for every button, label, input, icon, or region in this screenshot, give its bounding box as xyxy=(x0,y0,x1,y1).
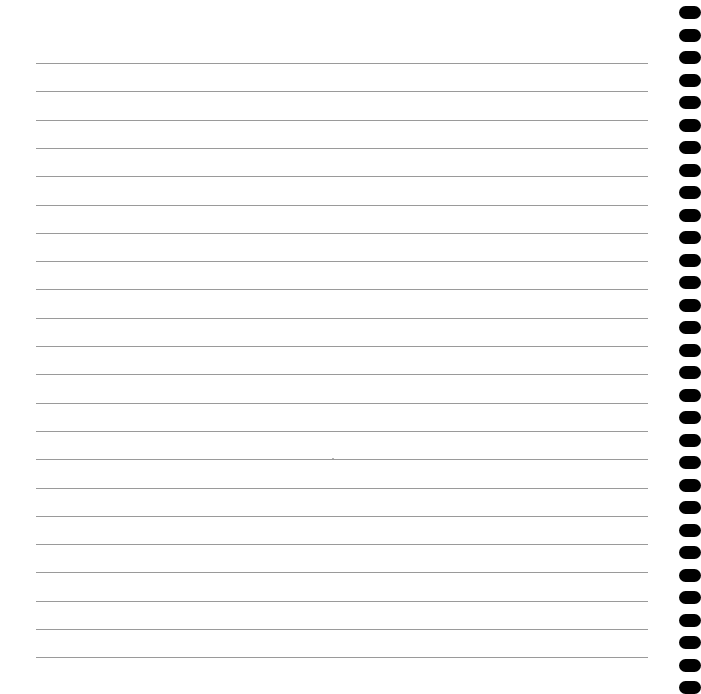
binding-hole xyxy=(679,29,701,42)
ruled-line xyxy=(36,120,648,121)
binding-hole xyxy=(679,344,701,357)
binding-hole xyxy=(679,119,701,132)
ruled-line xyxy=(36,176,648,177)
binding-hole xyxy=(679,614,701,627)
ruled-line xyxy=(36,488,648,489)
ruled-line xyxy=(36,544,648,545)
ruled-line xyxy=(36,261,648,262)
ruled-line xyxy=(36,601,648,602)
binding-hole xyxy=(679,524,701,537)
binding-hole xyxy=(679,456,701,469)
binding-hole xyxy=(679,681,701,694)
paper-speck xyxy=(332,458,334,460)
binding-hole xyxy=(679,636,701,649)
ruled-line xyxy=(36,148,648,149)
binding-hole xyxy=(679,74,701,87)
binding-hole xyxy=(679,479,701,492)
binding-hole xyxy=(679,366,701,379)
binding-hole xyxy=(679,96,701,109)
binding-hole xyxy=(679,321,701,334)
binding-hole xyxy=(679,164,701,177)
ruled-line xyxy=(36,91,648,92)
binding-hole xyxy=(679,389,701,402)
binding-hole xyxy=(679,276,701,289)
binding-hole xyxy=(679,51,701,64)
ruled-line xyxy=(36,318,648,319)
ruled-line xyxy=(36,657,648,658)
binding-hole xyxy=(679,231,701,244)
ruled-line xyxy=(36,403,648,404)
binding-hole xyxy=(679,141,701,154)
ruled-line xyxy=(36,346,648,347)
ruled-line xyxy=(36,205,648,206)
binding-hole xyxy=(679,186,701,199)
binding-hole xyxy=(679,591,701,604)
ruled-line xyxy=(36,431,648,432)
binding-hole xyxy=(679,546,701,559)
binding-hole xyxy=(679,209,701,222)
ruled-line xyxy=(36,233,648,234)
ruled-line xyxy=(36,374,648,375)
binding-hole xyxy=(679,254,701,267)
binding-hole xyxy=(679,411,701,424)
binding-hole xyxy=(679,569,701,582)
ruled-line xyxy=(36,572,648,573)
binding-hole xyxy=(679,299,701,312)
ruled-line xyxy=(36,289,648,290)
ruled-line xyxy=(36,63,648,64)
ruled-line xyxy=(36,629,648,630)
binding-hole xyxy=(679,659,701,672)
binding-hole xyxy=(679,501,701,514)
ruled-line xyxy=(36,516,648,517)
binding-hole xyxy=(679,6,701,19)
binding-hole xyxy=(679,434,701,447)
ruled-line xyxy=(36,459,648,460)
